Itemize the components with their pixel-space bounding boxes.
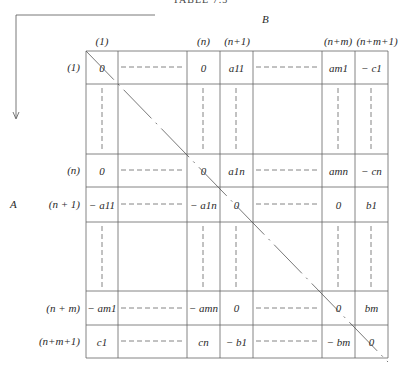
matrix-cell: − am1 [86, 291, 118, 325]
matrix-cell: − a1n [187, 187, 220, 222]
matrix-cell: 0 [355, 325, 388, 358]
row-header-nm1: (n+m+1) [0, 335, 80, 347]
row-header-n: (n) [0, 164, 80, 176]
row-header-1: (1) [0, 61, 80, 73]
col-header-nm1: (n+m+1) [353, 35, 401, 47]
matrix-cell: 0 [322, 291, 355, 325]
matrix-cell: − c1 [355, 51, 388, 84]
matrix-cell: amn [322, 154, 355, 187]
col-header-1: (1) [86, 35, 118, 47]
matrix-cell: 0 [86, 51, 118, 84]
matrix-cell: a11 [220, 51, 253, 84]
matrix-cell: b1 [355, 187, 388, 222]
col-header-n1: (n+1) [217, 35, 257, 47]
matrix-cell: 0 [187, 51, 220, 84]
matrix-cell: bm [355, 291, 388, 325]
matrix-cell: c1 [86, 325, 118, 358]
matrix-cell: am1 [322, 51, 355, 84]
matrix-cell: a1n [220, 154, 253, 187]
matrix-cell: − cn [355, 154, 388, 187]
axis-label-b: B [262, 13, 269, 25]
matrix-cell: 0 [220, 291, 253, 325]
row-header-nm: (n + m) [0, 302, 80, 314]
matrix-cell: − b1 [220, 325, 253, 358]
col-header-nm: (n+m) [318, 35, 358, 47]
row-header-n1: (n + 1) [0, 198, 80, 210]
matrix-cell: 0 [220, 187, 253, 222]
matrix-cell: 0 [86, 154, 118, 187]
matrix-cell: 0 [322, 187, 355, 222]
matrix-cell: cn [187, 325, 220, 358]
col-header-n: (n) [187, 35, 220, 47]
matrix-cell: − a11 [86, 187, 118, 222]
matrix-cell: 0 [187, 154, 220, 187]
matrix-cell: − bm [322, 325, 355, 358]
matrix-cell: − amn [187, 291, 220, 325]
